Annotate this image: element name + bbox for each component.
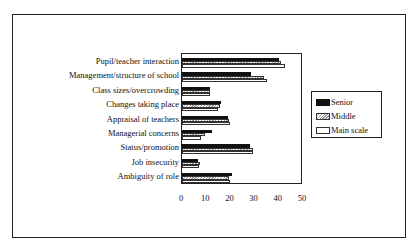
legend-item-senior: Senior xyxy=(316,97,353,107)
bar-main xyxy=(182,93,210,96)
category-label: Pupil/teacher interaction xyxy=(96,56,179,66)
category-label: Appraisal of teachers xyxy=(107,114,179,124)
x-tick-label: 40 xyxy=(274,193,283,203)
x-tick-label: 30 xyxy=(249,193,258,203)
bar-main xyxy=(182,151,253,154)
bar-main xyxy=(182,136,201,139)
legend-item-main-scale: Main scale xyxy=(316,125,368,135)
plot-area xyxy=(181,53,302,184)
x-tick-label: 10 xyxy=(201,193,210,203)
bar-main xyxy=(182,180,230,183)
legend-label: Main scale xyxy=(331,125,368,135)
category-label: Status/promotion xyxy=(120,142,179,152)
bar-main xyxy=(182,108,218,111)
legend-label: Middle xyxy=(331,111,356,121)
legend-item-middle: Middle xyxy=(316,111,356,121)
x-tick-label: 50 xyxy=(298,193,307,203)
bar-main xyxy=(182,165,199,168)
category-label: Management/structure of school xyxy=(69,70,179,80)
bar-main xyxy=(182,64,285,67)
middle-swatch-icon xyxy=(316,113,330,120)
x-tick-label: 20 xyxy=(225,193,234,203)
main-scale-swatch-icon xyxy=(316,127,330,134)
category-label: Ambiguity of role xyxy=(118,171,179,181)
category-label: Changes taking place xyxy=(106,99,179,109)
bar-main xyxy=(182,79,267,82)
category-label: Job insecurity xyxy=(132,157,179,167)
category-label: Managerial concerns xyxy=(108,128,179,138)
legend-label: Senior xyxy=(331,97,353,107)
senior-swatch-icon xyxy=(316,99,330,106)
x-tick-label: 0 xyxy=(179,193,183,203)
legend: Senior Middle Main scale xyxy=(311,91,382,138)
bar-main xyxy=(182,122,230,125)
category-label: Class sizes/overcrowding xyxy=(92,85,179,95)
